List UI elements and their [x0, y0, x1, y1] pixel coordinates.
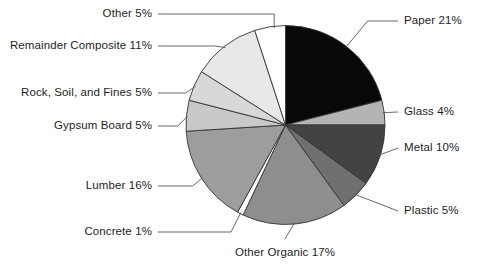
callout-line-paper: [346, 21, 398, 48]
slice-label-plastic: Plastic 5%: [404, 204, 459, 217]
pie-chart-figure: Paper 21% Glass 4% Metal 10% Plastic 5% …: [0, 0, 489, 275]
callout-line-plastic: [355, 194, 398, 211]
callout-line-glass: [383, 112, 398, 113]
slice-label-remainder-composite: Remainder Composite 11%: [0, 39, 152, 52]
slice-label-other-organic: Other Organic 17%: [185, 246, 385, 259]
callout-line-gypsum: [158, 116, 188, 126]
slice-label-lumber: Lumber 16%: [0, 179, 152, 192]
callout-line-remainder: [158, 46, 225, 48]
callout-line-rock: [158, 86, 196, 93]
slice-label-rock-soil-fines: Rock, Soil, and Fines 5%: [0, 86, 152, 99]
slice-label-concrete: Concrete 1%: [0, 225, 152, 238]
callout-line-concrete: [158, 212, 241, 232]
slice-label-paper: Paper 21%: [404, 14, 462, 27]
callout-line-lumber: [158, 178, 203, 187]
slice-label-gypsum-board: Gypsum Board 5%: [0, 119, 152, 132]
callout-line-other: [158, 14, 274, 28]
slice-label-glass: Glass 4%: [404, 105, 454, 118]
callout-line-organic: [285, 223, 295, 239]
slice-label-other: Other 5%: [0, 7, 152, 20]
slice-label-metal: Metal 10%: [404, 141, 459, 154]
